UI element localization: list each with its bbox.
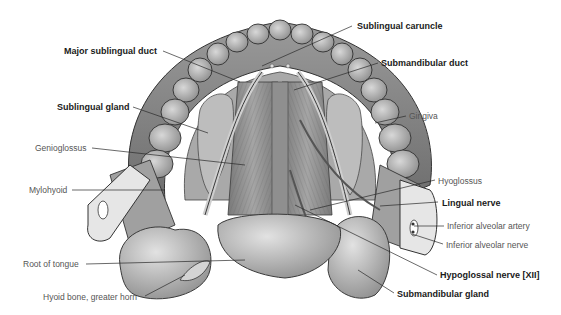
root-of-tongue-shape — [218, 214, 341, 278]
label-sublingual-caruncle: Sublingual caruncle — [357, 21, 443, 31]
label-gingiva: Gingiva — [409, 111, 438, 121]
label-genioglossus: Genioglossus — [35, 143, 87, 153]
label-hyoglossus: Hyoglossus — [438, 176, 482, 186]
label-submandibular-duct: Submandibular duct — [381, 58, 468, 68]
label-root-of-tongue: Root of tongue — [23, 259, 79, 269]
label-sublingual-gland: Sublingual gland — [57, 102, 130, 112]
label-inferior-alveolar-nerve: Inferior alveolar nerve — [446, 240, 528, 250]
label-mylohyoid: Mylohyoid — [29, 185, 67, 195]
label-lingual-nerve: Lingual nerve — [442, 198, 501, 208]
label-hypoglossal-nerve: Hypoglossal nerve [XII] — [440, 270, 540, 280]
label-hyoid-bone-greater-horn: Hyoid bone, greater horn — [43, 292, 137, 302]
label-inferior-alveolar-artery: Inferior alveolar artery — [447, 221, 530, 231]
label-submandibular-gland: Submandibular gland — [397, 289, 489, 299]
label-major-sublingual-duct: Major sublingual duct — [64, 46, 157, 56]
anatomy-figure: Major sublingual ductSublingual caruncle… — [0, 0, 561, 315]
